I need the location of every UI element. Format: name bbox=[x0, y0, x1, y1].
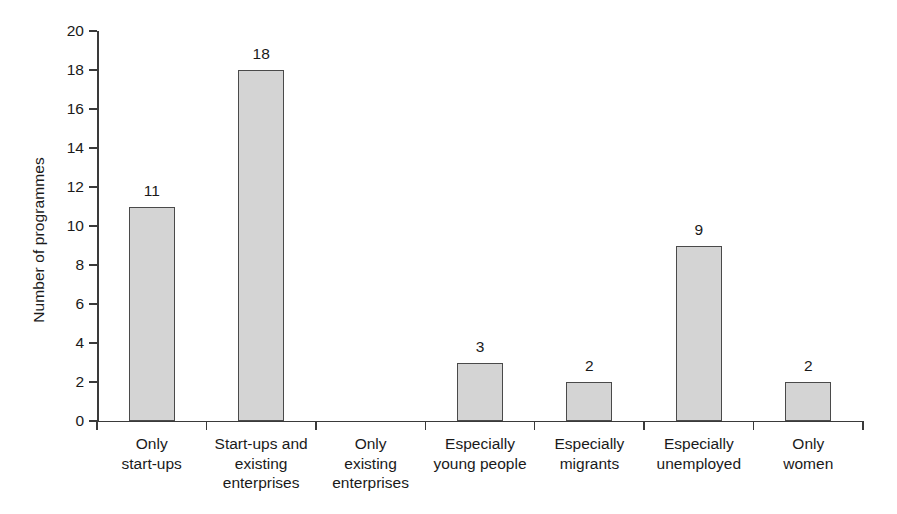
y-axis-tick bbox=[89, 303, 97, 305]
bar bbox=[676, 246, 722, 422]
x-axis-category-label-line: Especially bbox=[421, 434, 539, 454]
x-axis-category-label-line: Especially bbox=[530, 434, 648, 454]
x-axis-category-label-line: young people bbox=[421, 454, 539, 474]
y-axis-tick bbox=[89, 186, 97, 188]
x-axis-tick bbox=[643, 421, 645, 430]
y-axis-tick-label: 2 bbox=[50, 374, 84, 390]
bar-value-label: 2 bbox=[778, 358, 838, 374]
y-axis-tick-label: 12 bbox=[50, 179, 84, 195]
x-axis-category-label-line: Only bbox=[93, 434, 211, 454]
x-axis-category-label-line: enterprises bbox=[312, 473, 430, 493]
x-axis-category-label: Especiallymigrants bbox=[530, 434, 648, 473]
x-axis-category-label-line: Only bbox=[312, 434, 430, 454]
y-axis-tick-label: 4 bbox=[50, 335, 84, 351]
y-axis-tick bbox=[89, 264, 97, 266]
y-axis-tick-label: 10 bbox=[50, 218, 84, 234]
y-axis-tick-label: 0 bbox=[50, 413, 84, 429]
x-axis-category-label-line: women bbox=[749, 454, 867, 474]
x-axis-category-label-line: start-ups bbox=[93, 454, 211, 474]
bar-value-label: 9 bbox=[669, 222, 729, 238]
bar bbox=[785, 382, 831, 421]
bar bbox=[566, 382, 612, 421]
x-axis-category-label-line: Especially bbox=[640, 434, 758, 454]
bar-value-label: 2 bbox=[559, 358, 619, 374]
bar-value-label: 3 bbox=[450, 339, 510, 355]
x-axis-category-label-line: migrants bbox=[530, 454, 648, 474]
y-axis-tick-label: 18 bbox=[50, 62, 84, 78]
x-axis-tick bbox=[425, 421, 427, 430]
y-axis-tick-label: 8 bbox=[50, 257, 84, 273]
bar-chart: Number of programmes 20181614121086420 1… bbox=[0, 0, 897, 514]
y-axis-tick-label: 14 bbox=[50, 140, 84, 156]
y-axis-tick bbox=[89, 225, 97, 227]
x-axis-category-label-line: enterprises bbox=[202, 473, 320, 493]
x-axis-category-label-line: existing bbox=[312, 454, 430, 474]
y-axis-tick-label: 16 bbox=[50, 101, 84, 117]
x-axis-tick bbox=[534, 421, 536, 430]
y-axis-tick bbox=[89, 342, 97, 344]
y-axis-tick bbox=[89, 69, 97, 71]
x-axis-category-label: Onlywomen bbox=[749, 434, 867, 473]
x-axis-tick bbox=[206, 421, 208, 430]
x-axis-category-label: Onlystart-ups bbox=[93, 434, 211, 473]
bar bbox=[238, 70, 284, 421]
bar bbox=[129, 207, 175, 422]
x-axis-category-label: Especiallyyoung people bbox=[421, 434, 539, 473]
x-axis-category-label-line: Start-ups and bbox=[202, 434, 320, 454]
y-axis-line bbox=[97, 31, 99, 422]
x-axis-category-label: Onlyexistingenterprises bbox=[312, 434, 430, 493]
x-axis-category-label: Start-ups andexistingenterprises bbox=[202, 434, 320, 493]
y-axis-tick bbox=[89, 381, 97, 383]
x-axis-tick bbox=[753, 421, 755, 430]
x-axis-tick bbox=[862, 421, 864, 430]
x-axis-category-label-line: unemployed bbox=[640, 454, 758, 474]
x-axis-category-label-line: Only bbox=[749, 434, 867, 454]
x-axis-tick bbox=[96, 421, 98, 430]
x-axis-tick bbox=[315, 421, 317, 430]
bar-value-label: 11 bbox=[122, 183, 182, 199]
y-axis-tick bbox=[89, 30, 97, 32]
bar bbox=[457, 363, 503, 422]
x-axis-category-label: Especiallyunemployed bbox=[640, 434, 758, 473]
y-axis-title: Number of programmes bbox=[26, 25, 52, 455]
y-axis-tick bbox=[89, 108, 97, 110]
bar-value-label: 18 bbox=[231, 46, 291, 62]
y-axis-tick-label: 6 bbox=[50, 296, 84, 312]
y-axis-tick-label: 20 bbox=[50, 23, 84, 39]
x-axis-category-label-line: existing bbox=[202, 454, 320, 474]
y-axis-tick bbox=[89, 147, 97, 149]
